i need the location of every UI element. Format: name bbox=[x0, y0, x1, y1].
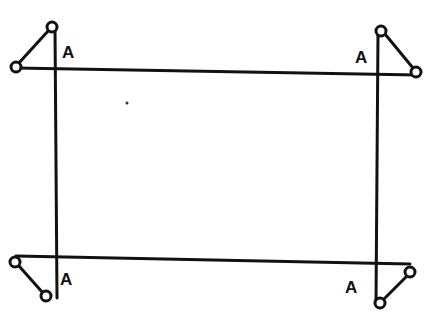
label-top-left: A bbox=[62, 43, 74, 62]
bottom-bar bbox=[16, 256, 410, 264]
brace-bottom-right bbox=[375, 267, 415, 308]
brace-bottom-left bbox=[10, 257, 51, 301]
brace-top-right bbox=[376, 26, 421, 77]
brace-top-left bbox=[11, 22, 57, 72]
right-post bbox=[376, 32, 378, 303]
frame-diagram: A A A A bbox=[0, 0, 434, 333]
label-bottom-right: A bbox=[345, 278, 357, 297]
top-bar bbox=[16, 68, 418, 75]
left-post bbox=[55, 28, 57, 298]
label-bottom-left: A bbox=[60, 270, 72, 289]
label-top-right: A bbox=[355, 48, 367, 67]
stray-dot bbox=[126, 102, 129, 105]
